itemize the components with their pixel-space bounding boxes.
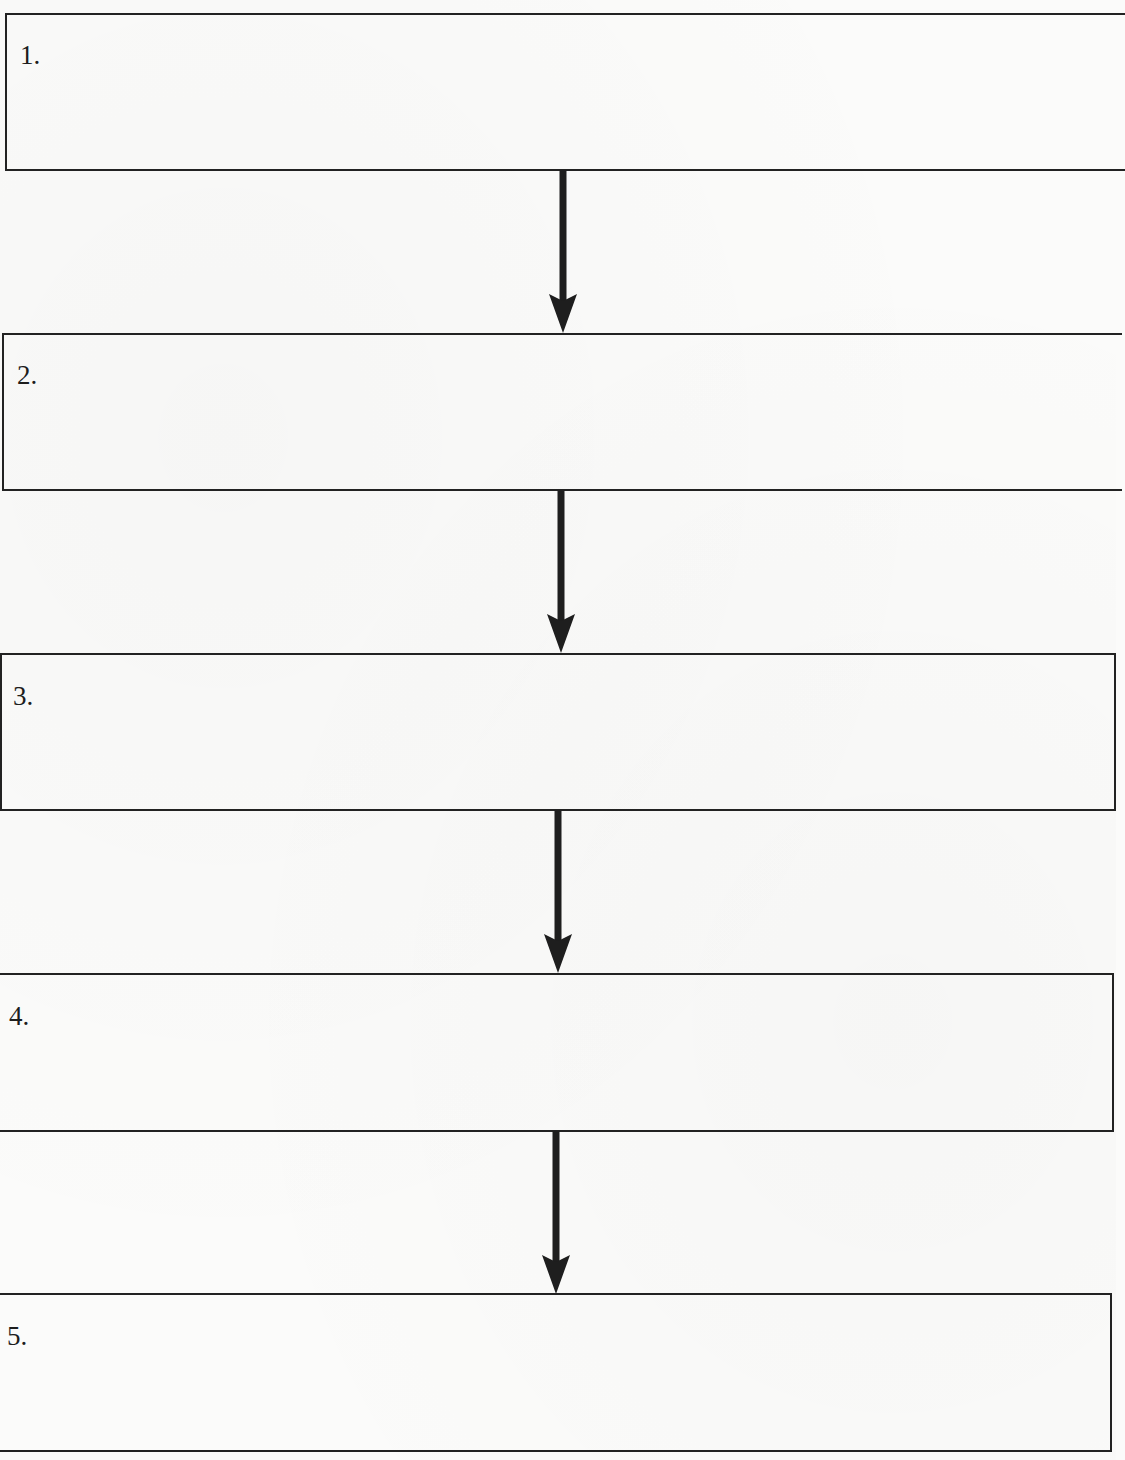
step-box-1[interactable]: 1. — [5, 13, 1125, 171]
arrow-down-icon — [540, 170, 586, 334]
step-box-5[interactable]: 5. — [0, 1293, 1112, 1452]
arrow-down-icon — [538, 490, 584, 654]
step-label-5: 5. — [7, 1323, 27, 1350]
step-label-4: 4. — [9, 1003, 29, 1030]
step-label-1: 1. — [20, 42, 40, 69]
step-box-2[interactable]: 2. — [2, 333, 1122, 491]
arrow-down-icon — [535, 810, 581, 974]
step-label-2: 2. — [17, 362, 37, 389]
arrow-down-icon — [533, 1131, 579, 1295]
step-box-3[interactable]: 3. — [0, 653, 1116, 811]
step-box-4[interactable]: 4. — [0, 973, 1114, 1132]
step-label-3: 3. — [13, 683, 33, 710]
